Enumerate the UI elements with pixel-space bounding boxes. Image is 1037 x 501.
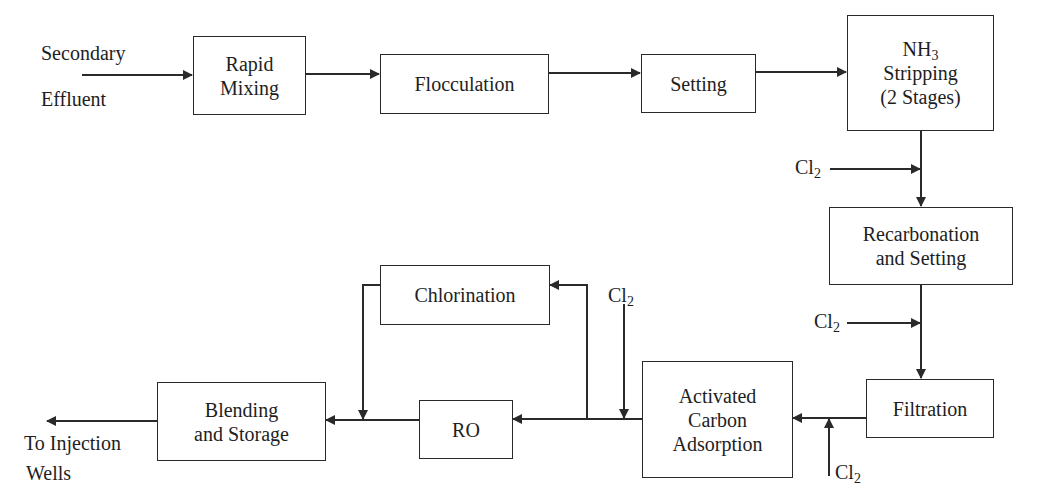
activated-carbon-box: Activated Carbon Adsorption [642,361,793,478]
nh3-stripping-box: NH3 Stripping (2 Stages) [847,15,994,131]
flocculation-label: Flocculation [415,72,515,96]
rapid-mixing-line1: Rapid [226,52,274,76]
setting-box: Setting [641,54,756,113]
chlorination-box: Chlorination [380,265,550,325]
recarbonation-line1: Recarbonation [863,222,980,246]
ro-box: RO [419,400,513,459]
rapid-mixing-box: Rapid Mixing [193,36,306,115]
cl2-label-4: Cl2 [608,283,634,307]
filtration-box: Filtration [866,379,994,438]
rapid-mixing-line2: Mixing [220,76,279,100]
output-label-line1: To Injection [24,431,121,455]
cl2-label-2: Cl2 [814,309,840,333]
source-label-line2: Effluent [41,87,106,111]
activated-carbon-line1: Activated [679,384,757,408]
activated-carbon-line2: Carbon [688,408,747,432]
recarbonation-line2: and Setting [876,246,967,270]
filtration-label: Filtration [893,397,967,421]
blending-storage-box: Blending and Storage [157,382,326,461]
chlorination-label: Chlorination [414,283,515,307]
nh3-stripping-line3: (2 Stages) [880,85,961,109]
source-label-line1: Secondary [41,41,125,65]
output-label-line2: Wells [26,461,71,485]
blending-line1: Blending [205,398,278,422]
cl2-label-3: Cl2 [835,460,861,484]
ro-label: RO [452,418,480,442]
setting-label: Setting [670,72,727,96]
blending-line2: and Storage [194,422,289,446]
flocculation-box: Flocculation [380,54,549,114]
nh3-stripping-line2: Stripping [883,61,957,85]
nh3-formula: NH3 [903,37,939,61]
recarbonation-box: Recarbonation and Setting [829,207,1013,285]
cl2-label-1: Cl2 [795,155,821,179]
activated-carbon-line3: Adsorption [673,432,763,456]
